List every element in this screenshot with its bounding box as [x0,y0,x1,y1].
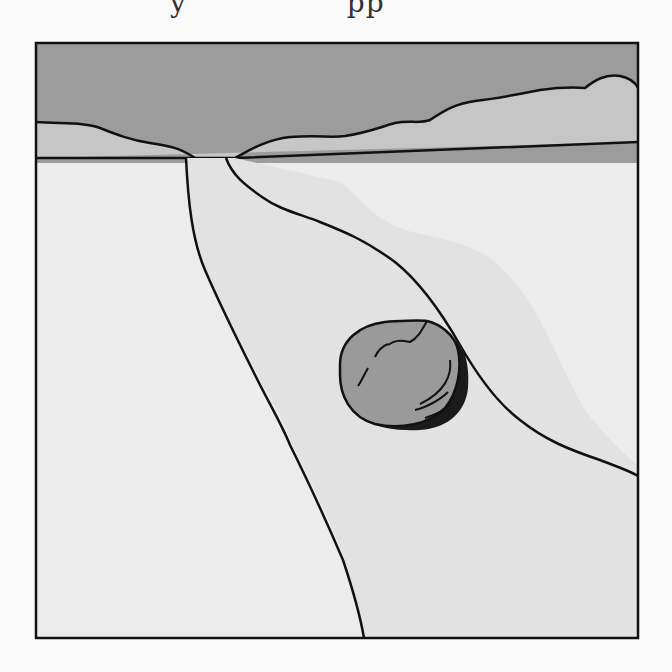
road-rock-illustration [0,0,672,672]
